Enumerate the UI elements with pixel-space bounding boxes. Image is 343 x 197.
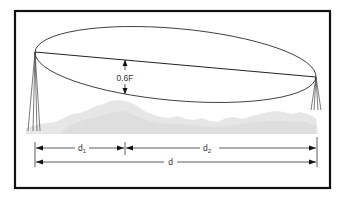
clearance-label: 0.6F [116, 73, 133, 83]
fresnel-diagram: 0.6F d1 d2 d [0, 0, 343, 197]
d-total-label: d [168, 157, 173, 167]
